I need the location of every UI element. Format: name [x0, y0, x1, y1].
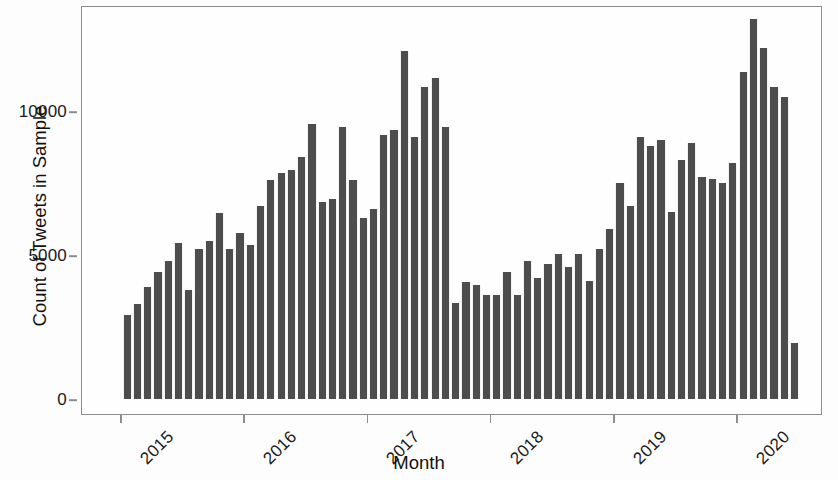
- bar: [256, 206, 265, 399]
- bar: [749, 19, 758, 399]
- x-tick-mark-2020: [736, 415, 738, 423]
- bar: [235, 233, 244, 399]
- y-tick-mark-10000: [69, 111, 77, 113]
- bar: [697, 177, 706, 399]
- bar: [646, 146, 655, 399]
- bar: [328, 199, 337, 399]
- bar: [759, 48, 768, 399]
- bar: [615, 183, 624, 399]
- bar: [626, 206, 635, 399]
- bar: [461, 282, 470, 399]
- chart-figure: 0 5000 10000 Count of Tweets in Sample 2…: [0, 0, 838, 480]
- bar: [513, 295, 522, 399]
- bar: [523, 261, 532, 399]
- bar: [307, 124, 316, 399]
- bar: [656, 140, 665, 399]
- bar: [451, 303, 460, 399]
- bar: [708, 179, 717, 399]
- bar: [400, 51, 409, 399]
- bar: [338, 127, 347, 399]
- y-tick-label-0: 0: [57, 390, 67, 410]
- bar: [492, 295, 501, 399]
- bar: [790, 343, 799, 399]
- bar: [769, 87, 778, 399]
- bar: [287, 170, 296, 399]
- bar: [739, 72, 748, 399]
- y-axis-title: Count of Tweets in Sample: [29, 66, 51, 366]
- bar: [431, 78, 440, 399]
- bar: [205, 241, 214, 399]
- bar: [605, 229, 614, 399]
- bar: [318, 202, 327, 399]
- bar: [277, 173, 286, 399]
- bar: [225, 249, 234, 399]
- bar: [389, 130, 398, 399]
- bar: [543, 264, 552, 399]
- bar: [718, 183, 727, 399]
- bar: [359, 218, 368, 399]
- y-tick-mark-5000: [69, 255, 77, 257]
- plot-frame: [81, 6, 822, 415]
- bar: [297, 157, 306, 399]
- bar: [246, 245, 255, 399]
- bar: [174, 243, 183, 399]
- bar: [153, 272, 162, 399]
- bar: [194, 249, 203, 399]
- bar: [677, 160, 686, 399]
- bar: [410, 137, 419, 399]
- x-tick-mark-2016: [243, 415, 245, 423]
- bar: [379, 135, 388, 399]
- bar: [502, 272, 511, 399]
- bar: [215, 213, 224, 399]
- x-tick-mark-2018: [490, 415, 492, 423]
- x-tick-mark-2017: [367, 415, 369, 423]
- bar: [595, 249, 604, 399]
- bar: [143, 287, 152, 399]
- bar: [184, 290, 193, 399]
- bar: [667, 212, 676, 399]
- bar: [564, 267, 573, 399]
- bar: [728, 163, 737, 399]
- x-axis-title: Month: [0, 452, 838, 474]
- bar: [636, 137, 645, 399]
- x-tick-mark-2015: [120, 415, 122, 423]
- bar: [369, 209, 378, 399]
- bar: [133, 304, 142, 399]
- bar: [164, 261, 173, 399]
- x-tick-mark-2019: [613, 415, 615, 423]
- y-tick-mark-0: [69, 399, 77, 401]
- bar: [348, 180, 357, 399]
- bar: [482, 295, 491, 399]
- bar: [472, 285, 481, 399]
- bar: [574, 254, 583, 399]
- y-axis: 0 5000 10000 Count of Tweets in Sample: [0, 0, 81, 480]
- bar: [554, 254, 563, 399]
- bar: [585, 281, 594, 399]
- bar: [266, 180, 275, 399]
- plot-area: [82, 7, 821, 414]
- bar: [533, 278, 542, 399]
- bar: [687, 143, 696, 399]
- bar: [123, 315, 132, 399]
- bar: [441, 127, 450, 399]
- bar: [420, 87, 429, 399]
- bar: [780, 97, 789, 399]
